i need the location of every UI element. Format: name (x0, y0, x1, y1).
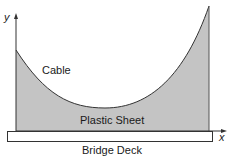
y-axis-arrow-icon (14, 13, 18, 19)
bridge-deck-label: Bridge Deck (82, 144, 142, 156)
cable-label: Cable (42, 64, 71, 76)
y-axis-label: y (3, 11, 11, 23)
bridge-diagram: Cable Plastic Sheet Bridge Deck x y (0, 0, 232, 166)
plastic-sheet-label: Plastic Sheet (80, 114, 144, 126)
x-axis-label: x (218, 131, 225, 143)
bridge-deck (8, 132, 213, 142)
